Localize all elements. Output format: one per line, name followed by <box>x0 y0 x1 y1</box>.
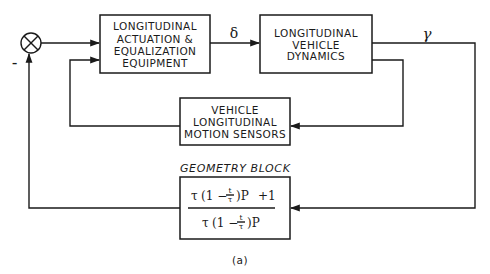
wire-outer-feedback-left <box>29 54 180 208</box>
block-diagram: – LONGITUDINAL ACTUATION & EQUALIZATION … <box>0 0 490 274</box>
dynamics-label-1: LONGITUDINAL <box>274 27 358 39</box>
svg-text:)P: )P <box>247 216 260 230</box>
geometry-block: τ (1 − t τ )P +1 τ (1 − t τ )P <box>180 177 290 239</box>
svg-text:t: t <box>239 213 242 222</box>
svg-text:)P: )P <box>236 189 249 203</box>
sensors-label-3: MOTION SENSORS <box>184 128 286 140</box>
svg-text:τ: τ <box>239 222 243 231</box>
svg-text:τ: τ <box>202 216 209 230</box>
dynamics-block: LONGITUDINAL VEHICLE DYNAMICS <box>260 15 372 73</box>
actuation-label-1: LONGITUDINAL <box>113 20 197 32</box>
feedback-sign-minus: – <box>12 57 18 69</box>
geometry-block-title: GEOMETRY BLOCK <box>180 162 291 175</box>
svg-text:(1 −: (1 − <box>212 216 238 230</box>
svg-text:(1 −: (1 − <box>201 189 227 203</box>
signal-delta: δ <box>230 25 238 41</box>
signal-gamma: γ <box>423 25 432 43</box>
svg-text:t: t <box>228 186 231 195</box>
summing-junction <box>21 33 41 53</box>
actuation-block: LONGITUDINAL ACTUATION & EQUALIZATION EQ… <box>100 15 210 73</box>
dynamics-label-3: DYNAMICS <box>287 50 345 62</box>
svg-text:+1: +1 <box>258 189 276 203</box>
svg-text:τ: τ <box>228 195 232 204</box>
sensors-label-1: VEHICLE <box>211 104 258 116</box>
sensors-label-2: LONGITUDINAL <box>193 116 277 128</box>
actuation-label-4: EQUIPMENT <box>122 57 188 69</box>
sensors-block: VEHICLE LONGITUDINAL MOTION SENSORS <box>180 98 290 145</box>
figure-caption: (a) <box>232 254 248 266</box>
actuation-label-2: ACTUATION & <box>117 33 193 45</box>
svg-text:τ: τ <box>191 189 198 203</box>
actuation-label-3: EQUALIZATION <box>114 45 197 57</box>
